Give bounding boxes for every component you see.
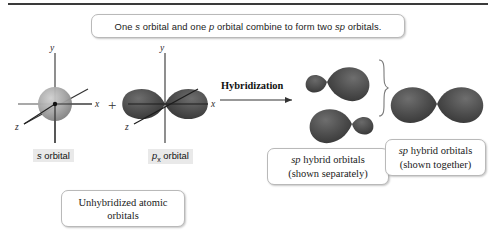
s-orbital-label: s orbital: [33, 149, 74, 162]
p-axis-label-y: y: [159, 43, 165, 53]
s-axis-label-x: x: [94, 99, 100, 109]
unhybridized-atomic-orbitals-box: Unhybridized atomic orbitals: [61, 190, 185, 227]
s-axis-label-y: y: [49, 43, 55, 53]
p-orbital-label-rest: orbital: [161, 150, 189, 161]
sp-orbital-together: [391, 87, 484, 123]
unhybridized-line2: orbitals: [79, 209, 168, 222]
hybridization-arrow: [220, 97, 292, 103]
sp-hybrid-separate-box: sp hybrid orbitals (shown separately): [267, 148, 389, 185]
grouping-brace: [379, 60, 388, 116]
sp-together-line2: (shown together): [399, 158, 473, 172]
sp-orbital-separate-bottom: [310, 109, 374, 143]
p-orbital-label: px orbital: [148, 149, 193, 164]
figure-caption-text: One s orbital and one p orbital combine …: [115, 21, 382, 32]
sp-hybrid-together-box: sp hybrid orbitals (shown together): [385, 139, 486, 176]
hybridization-label: Hybridization: [221, 80, 283, 91]
unhybridized-line1: Unhybridized atomic: [79, 196, 168, 209]
sp-together-symbol: sp: [399, 145, 408, 156]
sp-orbital-separate-top: [306, 67, 370, 101]
p-axis-label-z: z: [124, 122, 129, 132]
plus-sign: +: [108, 97, 116, 113]
sp-separate-line1: sp hybrid orbitals: [288, 153, 368, 167]
figure-caption: One s orbital and one p orbital combine …: [91, 14, 405, 38]
sp-separate-line1-rest: hybrid orbitals: [301, 154, 365, 165]
s-orbital-label-rest: orbital: [42, 150, 70, 161]
p-axis-label-x: x: [210, 99, 216, 109]
figure-canvas: x y z + x y z: [0, 0, 492, 241]
sp-together-line1-rest: hybrid orbitals: [408, 145, 472, 156]
sp-together-line1: sp hybrid orbitals: [399, 144, 473, 158]
s-axis-label-z: z: [14, 122, 19, 132]
sp-separate-symbol: sp: [291, 154, 300, 165]
sp-separate-line2: (shown separately): [288, 167, 368, 181]
